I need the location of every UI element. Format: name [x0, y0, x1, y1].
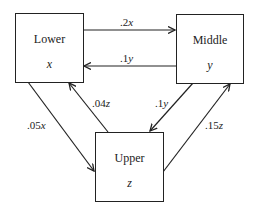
edge-label-lower-to-upper: .05x: [27, 119, 46, 131]
node-lower-var: x: [16, 57, 83, 72]
node-middle: Middle y: [176, 14, 244, 84]
node-lower-title: Lower: [16, 32, 83, 47]
edge-label-middle-to-lower: .1y: [120, 52, 133, 64]
node-lower: Lower x: [15, 13, 84, 83]
edge-label-lower-to-middle: .2x: [120, 16, 133, 28]
node-upper: Upper z: [95, 132, 164, 202]
edge-label-upper-to-lower: .04z: [92, 97, 110, 109]
edge-label-middle-to-upper: .1y: [155, 97, 168, 109]
node-middle-title: Middle: [177, 33, 243, 48]
edge-label-upper-to-middle: .15z: [205, 119, 223, 131]
node-upper-title: Upper: [96, 151, 163, 166]
node-upper-var: z: [96, 176, 163, 191]
node-middle-var: y: [177, 58, 243, 73]
